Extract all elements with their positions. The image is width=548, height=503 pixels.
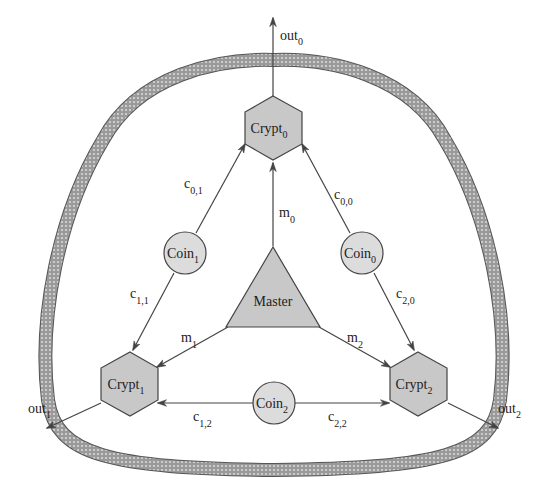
diagram-canvas: Master Crypt0 Crypt1 Crypt2 Coin1 Coin0	[0, 0, 548, 503]
label-c11: c1,1	[130, 286, 149, 306]
edge-c20	[374, 273, 414, 350]
node-coin0: Coin0	[341, 232, 383, 274]
label-c22: c2,2	[328, 409, 347, 429]
node-crypt0: Crypt0	[245, 96, 302, 160]
label-m1: m1	[181, 330, 197, 350]
crypt1-sub: 1	[139, 385, 144, 396]
crypt2-sub: 2	[427, 385, 432, 396]
node-coin1: Coin1	[164, 232, 206, 274]
coin2-sub: 2	[283, 404, 288, 415]
node-master: Master	[226, 247, 320, 327]
coin0-sub: 0	[371, 254, 376, 265]
edge-c00	[302, 144, 350, 233]
node-crypt1: Crypt1	[101, 352, 158, 416]
label-c12: c1,2	[193, 409, 212, 429]
label-out0: out0	[280, 28, 303, 47]
coin1-sub: 1	[194, 254, 199, 265]
label-c01: c0,1	[184, 176, 203, 196]
node-crypt2: Crypt2	[390, 352, 447, 416]
label-c00: c0,0	[334, 187, 353, 207]
crypt2-label: Crypt	[396, 377, 428, 392]
coin2-label: Coin	[256, 396, 283, 411]
label-m0: m0	[279, 205, 295, 225]
edge-c11	[133, 273, 174, 350]
coin0-label: Coin	[344, 246, 371, 261]
node-coin2: Coin2	[253, 382, 295, 424]
coin1-label: Coin	[167, 246, 194, 261]
edge-c01	[196, 144, 245, 233]
crypt1-label: Crypt	[108, 377, 140, 392]
crypt0-sub: 0	[282, 129, 287, 140]
master-label: Master	[254, 294, 293, 309]
crypt0-label: Crypt	[251, 121, 283, 136]
label-c20: c2,0	[396, 286, 415, 306]
